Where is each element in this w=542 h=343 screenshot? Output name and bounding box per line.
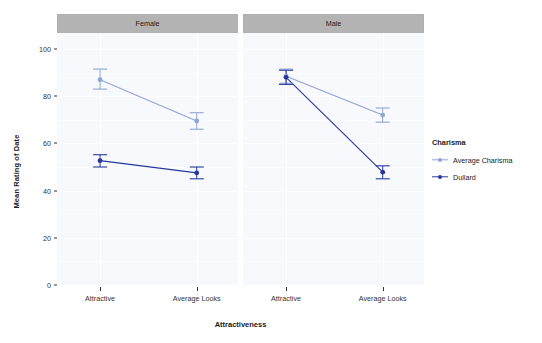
x-axis-tick-mark [383,287,384,291]
y-axis-title-text: Mean Rating of Date [12,135,21,209]
chart-root: Mean Rating of Date 020406080100 FemaleM… [0,0,542,343]
y-axis-tick-label: 100 [39,45,51,54]
legend-key-dot [438,175,442,179]
gridline-major [243,49,424,50]
legend-item-label: Average Charisma [453,156,512,165]
gridline-minor [243,73,424,74]
y-axis-tick-label: 40 [43,186,51,195]
x-axis-tick-label: Attractive [271,294,301,303]
facet-strip-label: Male [326,19,342,28]
x-axis-tick-label: Attractive [85,294,115,303]
gridline-major [243,238,424,239]
facet-panel-male [243,33,424,286]
gridline-major [243,143,424,144]
legend-entries: Average CharismaDullard [432,153,538,184]
x-axis-tick-label: Average Looks [173,294,221,303]
gridline-major [243,191,424,192]
gridline-major [57,96,238,97]
gridline-vertical [197,33,198,286]
gridline-minor [57,261,238,262]
gridline-vertical [100,33,101,286]
facet-panel-female [57,33,238,286]
y-axis-tick-label: 80 [43,92,51,101]
gridline-minor [243,214,424,215]
facet-strip-label: Female [136,19,160,28]
gridline-major [57,238,238,239]
gridline-vertical [286,33,287,286]
legend-key-icon [432,155,448,165]
gridline-major [243,285,424,286]
legend: Charisma Average CharismaDullard [432,138,538,187]
gridline-vertical [383,33,384,286]
y-axis-tick-label: 60 [43,139,51,148]
gridline-minor [243,120,424,121]
gridline-major [57,143,238,144]
legend-item[interactable]: Average Charisma [432,153,538,167]
legend-key-icon [432,172,448,182]
gridline-minor [243,261,424,262]
gridline-major [57,191,238,192]
x-axis-tick-label: Average Looks [359,294,407,303]
x-axis-tick-mark [100,287,101,291]
gridline-minor [57,167,238,168]
y-axis-tick-label: 20 [43,233,51,242]
x-axis-title: Attractiveness [57,320,424,329]
legend-title: Charisma [432,138,538,147]
gridline-minor [57,73,238,74]
x-axis-tick-mark [286,287,287,291]
facet-strip-male: Male [243,14,424,33]
legend-key-dot [438,158,442,162]
x-axis-tick-mark [197,287,198,291]
gridline-minor [243,167,424,168]
y-axis: 020406080100 [24,33,57,286]
legend-item[interactable]: Dullard [432,170,538,184]
legend-item-label: Dullard [453,173,476,182]
y-axis-tick-label: 0 [47,281,51,290]
gridline-major [243,96,424,97]
facet-strip-female: Female [57,14,238,33]
y-axis-title: Mean Rating of Date [8,0,24,343]
gridline-major [57,285,238,286]
gridline-major [57,49,238,50]
gridline-minor [57,214,238,215]
gridline-minor [57,120,238,121]
